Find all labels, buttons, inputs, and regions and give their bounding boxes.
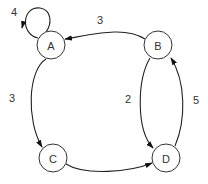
edge-d-to-b: [171, 58, 183, 146]
node-d-label: D: [162, 153, 170, 165]
edge-b-d-path: [140, 58, 153, 148]
node-c: C: [39, 144, 67, 172]
arrow-head-icon: [22, 24, 23, 28]
edge-a-to-c: [31, 59, 46, 147]
edge-label-a-a: 4: [11, 6, 17, 18]
edge-c-to-d: [66, 163, 152, 171]
edge-d-b-path: [171, 58, 183, 146]
edge-a-c-path: [31, 59, 46, 147]
node-c-label: C: [49, 153, 57, 165]
node-a-label: A: [47, 40, 55, 52]
node-a: A: [37, 31, 65, 59]
node-b-label: B: [154, 40, 161, 52]
edge-label-a-c: 3: [9, 92, 15, 104]
node-d: D: [152, 144, 180, 172]
edge-b-a-path: [65, 32, 145, 39]
edge-b-to-d: [140, 58, 153, 148]
edge-b-to-a: [65, 32, 145, 39]
edge-label-b-d: 2: [125, 93, 131, 105]
edge-label-b-a: 3: [97, 14, 103, 26]
edge-c-d-path: [66, 163, 152, 171]
edge-label-d-b: 5: [193, 94, 199, 106]
graph-canvas: 4 3 3 2 5 A B C D: [0, 0, 208, 184]
node-b: B: [144, 31, 172, 59]
